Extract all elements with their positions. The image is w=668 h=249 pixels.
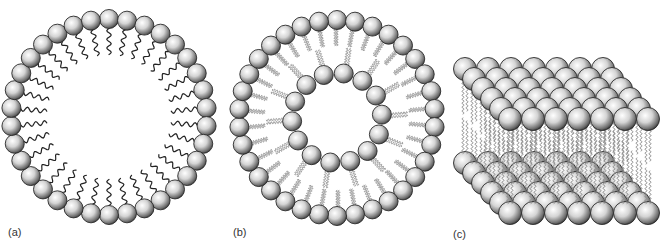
lipid-head-sphere	[415, 65, 434, 84]
vesicle-diagram	[230, 11, 444, 226]
lipid-tail	[141, 170, 156, 192]
lipid-head-sphere	[5, 81, 24, 100]
lipid-tail	[277, 171, 288, 183]
lipid-tail	[92, 178, 99, 204]
lipid-tail	[91, 30, 99, 56]
lipid-head-sphere	[100, 206, 119, 225]
lipid-head-sphere	[12, 151, 31, 170]
lipid-head-sphere	[197, 98, 216, 117]
lipid-head-sphere	[425, 118, 444, 137]
lipid-head-sphere	[422, 135, 441, 154]
lipid-tail	[265, 66, 278, 76]
lipid-head-sphere	[321, 153, 340, 172]
lipid-head-sphere	[363, 200, 382, 219]
lipid-head-sphere	[230, 99, 249, 118]
lipid-tail	[159, 155, 180, 171]
micelle-diagram	[2, 10, 216, 225]
lipid-tail	[107, 180, 111, 206]
lipid-tail	[466, 121, 468, 154]
lipid-head-sphere	[302, 146, 321, 165]
lipid-head-sphere	[2, 117, 21, 136]
lipid-head-sphere	[353, 71, 372, 90]
panel-label-b: (b)	[233, 226, 246, 238]
lipid-head-sphere	[346, 12, 365, 31]
lipid-head-sphere	[240, 152, 259, 171]
lipid-tail	[62, 170, 76, 192]
lipid-head-sphere	[81, 204, 100, 223]
lipid-head-sphere	[425, 99, 444, 118]
lipid-tail	[38, 64, 59, 80]
lipid-head-sphere	[637, 108, 660, 131]
lipid-head-sphere	[372, 105, 391, 124]
lipid-tail	[386, 52, 397, 64]
panel-label-a: (a)	[8, 226, 21, 238]
lipid-tail	[62, 42, 77, 64]
panel-label-c: (c)	[453, 228, 466, 240]
lipid-tail	[107, 29, 111, 55]
lipid-head-sphere	[135, 199, 154, 218]
lipid-tail	[392, 115, 408, 118]
lipid-head-sphere	[366, 86, 385, 105]
lipid-tail	[132, 34, 141, 58]
lipid-head-sphere	[499, 108, 522, 131]
lipid-head-sphere	[233, 82, 252, 101]
lipid-head-sphere	[568, 108, 591, 131]
lipid-head-sphere	[100, 10, 119, 29]
lipid-tail	[21, 121, 47, 127]
lipid-head-sphere	[591, 108, 614, 131]
lipid-head-sphere	[614, 202, 637, 225]
lipid-tail	[49, 163, 67, 183]
lipid-head-sphere	[314, 65, 333, 84]
lipid-head-sphere	[286, 92, 305, 111]
lipid-structures-figure	[0, 0, 668, 249]
lipid-head-sphere	[568, 202, 591, 225]
lipid-tail	[30, 144, 53, 158]
lipid-tail	[120, 30, 127, 56]
lipid-head-sphere	[309, 12, 328, 31]
lipid-tail	[171, 121, 197, 127]
lipid-tail	[266, 118, 282, 121]
lipid-tail	[49, 52, 67, 71]
lipid-head-sphere	[637, 202, 660, 225]
lipid-tail	[38, 154, 59, 171]
lipid-head-sphere	[64, 16, 83, 35]
lipid-head-sphere	[283, 112, 302, 131]
lipid-head-sphere	[2, 98, 21, 117]
lipid-head-sphere	[292, 17, 311, 36]
lipid-tail	[151, 51, 169, 71]
lipid-tail	[395, 162, 408, 172]
lipid-head-sphere	[358, 141, 377, 160]
lipid-head-sphere	[81, 11, 100, 30]
lipid-head-sphere	[341, 152, 360, 171]
lipid-head-sphere	[499, 202, 522, 225]
lipid-tail	[169, 91, 194, 101]
lipid-head-sphere	[197, 117, 216, 136]
lipid-tail	[165, 145, 188, 157]
lipid-tail	[76, 34, 88, 58]
lipid-tail	[396, 160, 409, 170]
lipid-head-sphere	[118, 11, 137, 30]
lipid-tail	[165, 77, 188, 91]
lipid-tail	[77, 175, 86, 199]
lipid-head-sphere	[187, 64, 206, 83]
lipid-head-sphere	[194, 81, 213, 100]
lipid-tail	[266, 65, 279, 75]
lipid-head-sphere	[309, 205, 328, 224]
lipid-tail	[142, 42, 156, 64]
lipid-head-sphere	[422, 82, 441, 101]
lipid-tail	[305, 186, 312, 201]
lipid-head-sphere	[297, 76, 316, 95]
lipid-head-sphere	[614, 108, 637, 131]
lipid-tail	[151, 163, 169, 182]
lipid-head-sphere	[328, 207, 347, 226]
lipid-head-sphere	[346, 205, 365, 224]
lipid-tail	[462, 118, 464, 154]
lipid-head-sphere	[328, 11, 347, 30]
lipid-head-sphere	[369, 125, 388, 144]
lipid-tail	[267, 121, 283, 124]
lipid-tail	[21, 107, 47, 113]
lipid-bilayer-diagram	[454, 58, 660, 225]
lipid-tail	[24, 133, 49, 143]
lipid-tail	[649, 129, 651, 162]
lipid-head-sphere	[194, 134, 213, 153]
